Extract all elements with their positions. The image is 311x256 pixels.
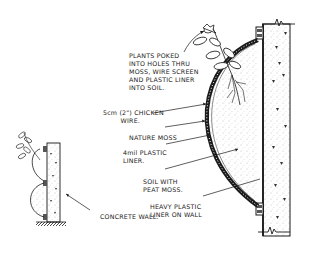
top-bracket <box>256 27 263 39</box>
label-plastic-liner: 4mil PLASTIC LINER. <box>123 149 167 165</box>
label-concrete-wall: CONCRETE WALL. <box>100 213 159 221</box>
label-chicken-wire: 5cm (2") CHICKEN WIRE. <box>103 109 164 125</box>
concrete-wall-small <box>16 131 66 226</box>
label-nature-moss: NATURE MOSS <box>129 134 177 142</box>
label-plants: PLANTS POKED INTO HOLES THRU MOSS, WIRE … <box>129 52 199 92</box>
label-soil: SOIL WITH PEAT MOSS. <box>143 178 183 194</box>
concrete-wall-large <box>258 19 295 236</box>
